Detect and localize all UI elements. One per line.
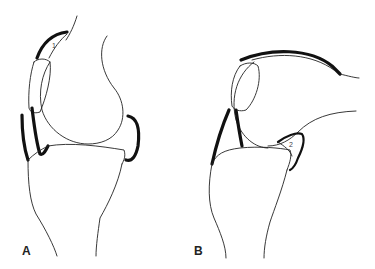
panel-b-drawing <box>209 52 359 258</box>
panel-label-a: A <box>22 244 31 258</box>
callout-2: 2 <box>289 141 293 148</box>
panel-label-b: B <box>194 244 203 258</box>
callout-1: 1 <box>52 42 56 49</box>
knee-diagram <box>0 0 375 269</box>
panel-a-drawing <box>22 16 139 256</box>
